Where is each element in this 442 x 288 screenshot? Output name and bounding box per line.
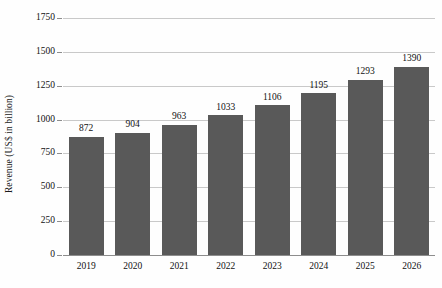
bar-value-label: 1293	[356, 67, 375, 77]
bar[interactable]	[301, 93, 336, 255]
bar[interactable]	[69, 137, 104, 255]
bar-value-label: 1106	[263, 93, 282, 103]
y-axis-tick-mark	[57, 255, 62, 256]
bar-group[interactable]: 1390	[394, 54, 429, 255]
bar-group[interactable]: 1293	[348, 67, 383, 255]
bar-value-label: 1033	[216, 103, 235, 113]
y-axis-tick-mark	[57, 52, 62, 53]
bar[interactable]	[394, 67, 429, 255]
bar-group[interactable]: 904	[115, 120, 150, 255]
y-axis-tick-label: 1500	[15, 47, 55, 57]
bar-value-label: 1390	[402, 54, 421, 64]
bar-value-label: 904	[126, 120, 140, 130]
x-axis-tick-label: 2021	[156, 262, 203, 272]
y-axis-tick-mark	[57, 153, 62, 154]
bar-chart: Revenue (US$ in billion) 025050075010001…	[0, 0, 442, 288]
y-axis-tick-label: 1000	[15, 115, 55, 125]
x-axis-tick-labels: 20192020202120222023202420252026	[63, 258, 435, 276]
y-axis-tick-label: 1750	[15, 13, 55, 23]
plot-area: 87290496310331106119512931390	[63, 18, 435, 255]
x-axis-tick-label: 2025	[342, 262, 389, 272]
y-axis-tick-label: 0	[15, 250, 55, 260]
bar-value-label: 963	[172, 112, 186, 122]
gridline	[63, 18, 435, 19]
bar-group[interactable]: 1033	[208, 103, 243, 255]
y-axis-tick-mark	[57, 120, 62, 121]
bar-group[interactable]: 1195	[301, 81, 336, 255]
y-axis-tick-label: 1250	[15, 81, 55, 91]
bar[interactable]	[115, 133, 150, 255]
bar-value-label: 872	[79, 124, 93, 134]
bar[interactable]	[348, 80, 383, 255]
x-axis-tick-label: 2023	[249, 262, 296, 272]
x-axis-tick-label: 2020	[110, 262, 157, 272]
y-axis-tick-label: 500	[15, 183, 55, 193]
x-axis-tick-label: 2019	[63, 262, 110, 272]
bar-value-label: 1195	[309, 81, 328, 91]
x-axis-tick-label: 2022	[203, 262, 250, 272]
bar-group[interactable]: 1106	[255, 93, 290, 255]
bar[interactable]	[162, 125, 197, 255]
y-axis-tick-label: 750	[15, 149, 55, 159]
x-axis-tick-label: 2026	[389, 262, 436, 272]
bar-group[interactable]: 872	[69, 124, 104, 255]
y-axis-tick-mark	[57, 221, 62, 222]
y-axis-tick-mark	[57, 86, 62, 87]
bar[interactable]	[255, 105, 290, 255]
gridline	[63, 52, 435, 53]
y-axis-tick-labels: 02505007501000125015001750	[8, 18, 55, 255]
y-axis-tick-label: 250	[15, 216, 55, 226]
y-axis-tick-mark	[57, 18, 62, 19]
bar[interactable]	[208, 115, 243, 255]
bar-group[interactable]: 963	[162, 112, 197, 255]
y-axis-tick-mark	[57, 187, 62, 188]
axis-baseline	[63, 255, 435, 256]
x-axis-tick-label: 2024	[296, 262, 343, 272]
